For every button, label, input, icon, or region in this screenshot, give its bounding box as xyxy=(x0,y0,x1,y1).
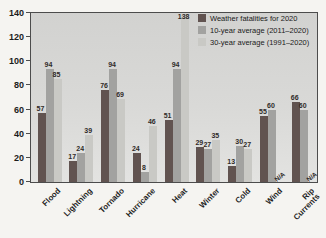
bar-rip-currents-s0 xyxy=(292,102,300,182)
y-tick-mark xyxy=(26,60,30,61)
bar-value-label: 69 xyxy=(116,91,124,98)
bar-cold-s1 xyxy=(236,146,244,182)
y-tick-mark xyxy=(26,84,30,85)
bar-value-label: 27 xyxy=(203,141,211,148)
y-tick-label: 80 xyxy=(14,80,24,90)
bar-value-label: 60 xyxy=(299,102,307,109)
legend-swatch-10yr xyxy=(198,26,206,34)
bar-value-label: 94 xyxy=(108,61,116,68)
bar-value-label: 29 xyxy=(195,139,203,146)
x-tick-label-flood: Flood xyxy=(41,187,62,208)
y-tick-label: 20 xyxy=(14,153,24,163)
y-tick-mark xyxy=(26,157,30,158)
bar-tornado-s0 xyxy=(101,90,109,182)
bar-flood-s1 xyxy=(46,69,54,182)
y-tick-mark xyxy=(26,12,30,13)
bar-value-label: 60 xyxy=(267,102,275,109)
x-tick-label-wind: Wind xyxy=(265,187,285,207)
y-tick-mark xyxy=(26,133,30,134)
bar-lightning-s1 xyxy=(77,153,85,182)
bar-value-label: 24 xyxy=(132,145,140,152)
bar-winter-s2 xyxy=(212,140,220,182)
y-tick-mark xyxy=(26,36,30,37)
bar-heat-s2 xyxy=(181,15,189,182)
bar-value-label: 8 xyxy=(142,164,146,171)
bar-value-label: 94 xyxy=(172,61,180,68)
legend-item-30yr: 30-year average (1991–2020) xyxy=(198,38,309,46)
bar-lightning-s2 xyxy=(85,135,93,182)
bar-value-label: 66 xyxy=(291,94,299,101)
bar-tornado-s1 xyxy=(109,69,117,182)
y-tick-mark xyxy=(26,109,30,110)
bar-hurricane-s0 xyxy=(133,153,141,182)
bar-value-label: 13 xyxy=(227,158,235,165)
bar-heat-s0 xyxy=(165,120,173,182)
legend: Weather fatalities for 2020 10-year aver… xyxy=(198,14,309,50)
legend-item-2020: Weather fatalities for 2020 xyxy=(198,14,309,22)
y-tick-label: 60 xyxy=(14,105,24,115)
bar-value-label: 85 xyxy=(53,71,61,78)
x-tick-label-winter: Winter xyxy=(198,187,221,210)
bar-lightning-s0 xyxy=(69,161,77,182)
x-tick-label-lightning: Lightning xyxy=(63,187,95,219)
y-tick-label: 100 xyxy=(9,56,24,66)
x-tick-label-heat: Heat xyxy=(171,187,189,205)
bar-value-label: 39 xyxy=(84,127,92,134)
x-tick-label-tornado: Tornado xyxy=(98,187,126,215)
bar-rip-currents-s1 xyxy=(300,110,308,182)
legend-label-30yr: 30-year average (1991–2020) xyxy=(210,38,309,47)
y-tick-label: 0 xyxy=(19,177,24,187)
x-tick-label-cold: Cold xyxy=(235,187,254,206)
bar-value-label: 17 xyxy=(68,153,76,160)
y-tick-label: 140 xyxy=(9,8,24,18)
legend-label-2020: Weather fatalities for 2020 xyxy=(210,14,297,23)
bar-wind-s0 xyxy=(260,116,268,182)
y-tick-label: 40 xyxy=(14,129,24,139)
bar-hurricane-s1 xyxy=(141,172,149,182)
bar-value-label: 76 xyxy=(100,82,108,89)
bar-value-label: 94 xyxy=(45,61,53,68)
bar-flood-s0 xyxy=(38,113,46,182)
bar-value-label: 35 xyxy=(211,132,219,139)
bar-value-label: 57 xyxy=(37,105,45,112)
bar-hurricane-s2 xyxy=(149,126,157,182)
x-tick-label-hurricane: Hurricane xyxy=(125,187,157,219)
bar-tornado-s2 xyxy=(117,99,125,182)
bar-value-label: 24 xyxy=(76,145,84,152)
bar-value-label: 30 xyxy=(235,138,243,145)
x-tick-label-rip-currents: Rip Currents xyxy=(287,187,322,222)
bar-winter-s0 xyxy=(196,147,204,182)
bar-winter-s1 xyxy=(204,149,212,182)
bar-value-label: 27 xyxy=(243,141,251,148)
bar-value-label: 55 xyxy=(259,108,267,115)
legend-label-10yr: 10-year average (2011–2020) xyxy=(210,26,309,35)
legend-item-10yr: 10-year average (2011–2020) xyxy=(198,26,309,34)
bar-cold-s2 xyxy=(244,149,252,182)
bar-value-label: 138 xyxy=(178,13,190,20)
legend-swatch-2020 xyxy=(198,14,206,22)
weather-fatalities-chart: N/AN/A 020406080100120140 FloodLightning… xyxy=(0,0,326,238)
bar-flood-s2 xyxy=(54,79,62,182)
y-tick-mark xyxy=(26,181,30,182)
legend-swatch-30yr xyxy=(198,38,206,46)
bar-value-label: 46 xyxy=(148,118,156,125)
bar-heat-s1 xyxy=(173,69,181,182)
bar-value-label: 51 xyxy=(164,112,172,119)
y-tick-label: 120 xyxy=(9,32,24,42)
bar-wind-s1 xyxy=(268,110,276,182)
bar-cold-s0 xyxy=(228,166,236,182)
